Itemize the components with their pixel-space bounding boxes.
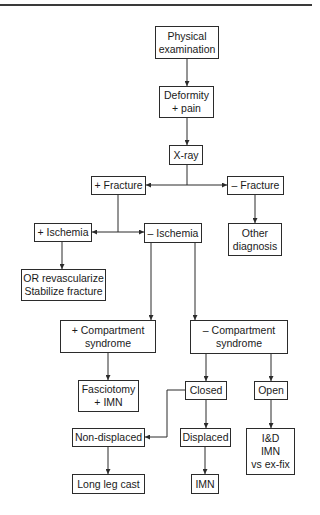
node-label: IMN	[261, 445, 280, 458]
node-label: + Ischemia	[37, 226, 88, 239]
node-label: – Compartment	[203, 324, 275, 337]
node-or-revascularize: OR revascularize Stabilize fracture	[21, 269, 106, 301]
node-label: Physical	[167, 30, 206, 43]
node-physical-examination: Physical examination	[155, 26, 219, 59]
node-label: + Compartment	[72, 324, 145, 337]
node-open: Open	[254, 381, 288, 400]
node-label: Closed	[190, 384, 223, 397]
node-label: Other	[242, 227, 268, 240]
node-non-displaced: Non-displaced	[72, 428, 145, 447]
node-label: + pain	[172, 102, 201, 115]
node-label: Displaced	[182, 431, 228, 444]
node-closed: Closed	[185, 381, 227, 400]
node-label: vs ex-fix	[251, 458, 290, 471]
node-label: – Ischemia	[148, 227, 199, 240]
node-label: Non-displaced	[75, 431, 142, 444]
node-label: – Fracture	[232, 179, 280, 192]
node-label: syndrome	[85, 337, 131, 350]
node-label: OR revascularize	[23, 272, 104, 285]
node-label: syndrome	[216, 337, 262, 350]
node-label: + IMN	[94, 396, 122, 409]
node-id-imn-exfix: I&D IMN vs ex-fix	[246, 428, 295, 475]
node-label: examination	[159, 43, 216, 56]
node-negative-ischemia: – Ischemia	[144, 223, 202, 243]
node-positive-ischemia: + Ischemia	[34, 223, 92, 242]
node-label: Deformity	[164, 89, 209, 102]
node-label: X-ray	[173, 149, 198, 162]
node-label: Long leg cast	[77, 478, 139, 491]
node-long-leg-cast: Long leg cast	[72, 474, 145, 494]
node-negative-fracture: – Fracture	[227, 176, 284, 195]
node-label: Open	[258, 384, 284, 397]
node-negative-compartment-syndrome: – Compartment syndrome	[190, 320, 288, 354]
node-label: I&D	[262, 432, 280, 445]
node-label: Fasciotomy	[82, 383, 136, 396]
node-xray: X-ray	[169, 145, 203, 165]
node-label: Stabilize fracture	[24, 285, 102, 298]
node-other-diagnosis: Other diagnosis	[228, 223, 282, 256]
node-displaced: Displaced	[180, 428, 231, 447]
node-positive-fracture: + Fracture	[91, 176, 146, 195]
node-deformity-pain: Deformity + pain	[159, 86, 214, 118]
node-fasciotomy-imn: Fasciotomy + IMN	[78, 380, 139, 412]
node-label: IMN	[195, 478, 214, 491]
node-imn: IMN	[191, 474, 219, 494]
node-label: + Fracture	[94, 179, 142, 192]
node-positive-compartment-syndrome: + Compartment syndrome	[60, 320, 156, 353]
edge-closed-non-displaced	[145, 390, 185, 437]
node-label: diagnosis	[233, 240, 277, 253]
